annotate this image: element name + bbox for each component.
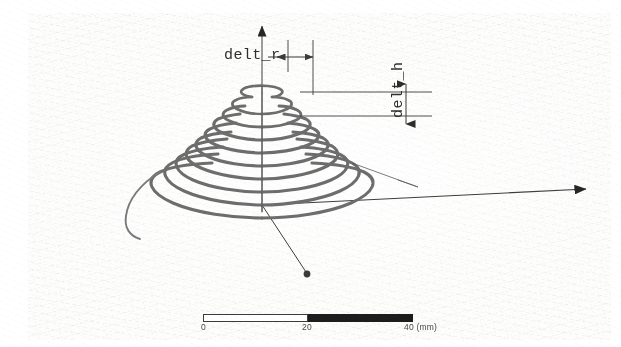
coordinate-axes	[262, 26, 586, 277]
helix-turn	[186, 139, 262, 179]
delt-h-leader-line	[398, 180, 418, 187]
scale-bar-segment-left	[203, 314, 308, 322]
scale-bar	[203, 314, 413, 322]
drawing-vector-layer	[0, 0, 621, 347]
delt-r-label: delt_r	[224, 47, 280, 64]
helix-tail	[126, 172, 160, 239]
scale-bar-segment-right	[308, 314, 413, 322]
helix-turn	[262, 139, 338, 179]
delt-h-label: delt_h	[390, 62, 407, 118]
scale-bar-tick-0: 0	[201, 322, 206, 332]
scale-bar-tick-40: 40 (mm)	[404, 322, 437, 332]
conical-helix-coil	[126, 86, 373, 239]
horizontal-axis-arrow	[262, 189, 586, 205]
scale-bar-tick-20: 20	[302, 322, 312, 332]
figure-canvas: delt_r delt_h 0 20 40 (mm)	[0, 0, 621, 347]
depth-axis-marker	[304, 271, 311, 278]
